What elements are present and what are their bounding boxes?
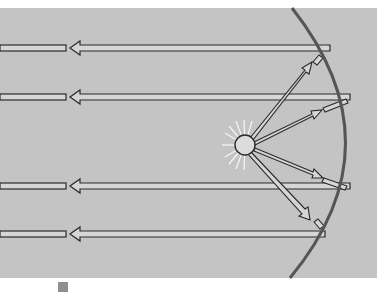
legend-swatch [58,282,68,292]
reflector-diagram [0,0,385,292]
light-source-bulb [235,135,255,155]
diagram-canvas [0,0,385,292]
